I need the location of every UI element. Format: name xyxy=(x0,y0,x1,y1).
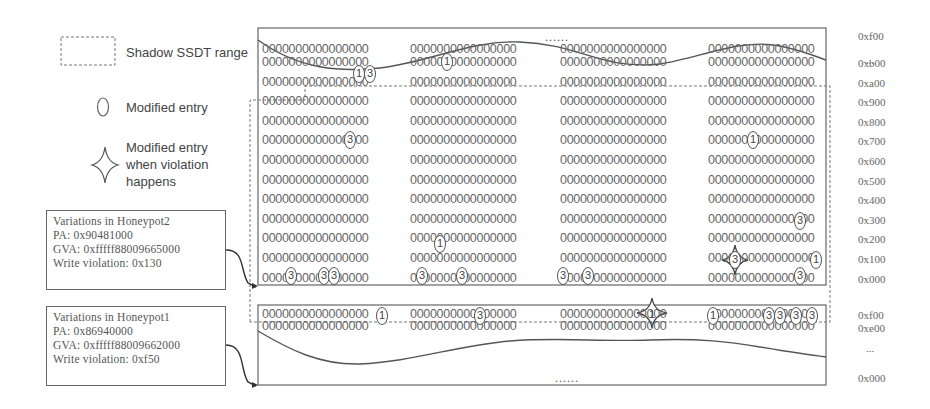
honeypot1-info-box: Variations in Honeypot1 PA: 0x86940000 G… xyxy=(46,306,226,386)
row-cell: 0000000000000000 xyxy=(708,154,814,167)
address-label: 0x100 xyxy=(858,253,886,265)
legend-dashed-rect-icon xyxy=(61,37,115,65)
modified-entry-mark: 1 xyxy=(376,307,388,325)
honeypot1-pa: PA: 0x86940000 xyxy=(53,324,219,338)
legend-ellipse-icon xyxy=(98,98,109,116)
row-cell: 0000000000000000 xyxy=(410,154,516,167)
honeypot1-title: Variations in Honeypot1 xyxy=(53,310,219,324)
row-cell: 0000000000000000 xyxy=(410,252,516,265)
row-cell: 0000000000000000 xyxy=(262,76,368,89)
modified-entry-mark: 3 xyxy=(794,212,806,230)
legend-violation-line: happens xyxy=(126,173,208,190)
modified-entry-mark: 3 xyxy=(285,267,297,285)
row-cell: 0000000000000000 xyxy=(560,154,666,167)
row-cell: 0000000000000000 xyxy=(410,134,516,147)
row-cell: 0000000000000000 xyxy=(708,193,814,206)
row-cell: 0000000000000000 xyxy=(708,134,814,147)
honeypot1-gva: GVA: 0xfffff88009662000 xyxy=(53,338,219,352)
address-label: 0x200 xyxy=(858,233,886,245)
modified-entry-mark: 3 xyxy=(790,307,802,325)
row-cell: 0000000000000000 xyxy=(410,76,516,89)
row-cell: 0000000000000000 xyxy=(560,95,666,108)
row-cell: 0000000000000000 xyxy=(560,76,666,89)
modified-entry-mark: 3 xyxy=(474,307,486,325)
address-ellipsis: ... xyxy=(866,342,874,354)
row-cell: 0000000000000000 xyxy=(560,193,666,206)
row-cell: 0000000000000000 xyxy=(560,174,666,187)
row-cell: 0000000000000000 xyxy=(560,134,666,147)
row-cell: 0000000000000000 xyxy=(410,213,516,226)
row-cell: 0000000000000000 xyxy=(262,232,368,245)
modified-entry-mark: 3 xyxy=(344,131,356,149)
row-cell: 0000000000000000 xyxy=(708,252,814,265)
modified-entry-mark: 3 xyxy=(582,267,594,285)
row-cell: 0000000000000000 xyxy=(560,213,666,226)
row-cell: 0000000000000000 xyxy=(262,320,368,333)
address-label: 0x700 xyxy=(858,135,886,147)
honeypot2-gva: GVA: 0xfffff88009665000 xyxy=(53,242,219,256)
row-cell: 0000000000000000 xyxy=(708,56,814,69)
row-cell: 0000000000000000 xyxy=(560,252,666,265)
row-cell: 0000000000000000 xyxy=(410,174,516,187)
legend-star-icon xyxy=(92,147,118,183)
honeypot2-pa: PA: 0x90481000 xyxy=(53,228,219,242)
modified-entry-mark: 3 xyxy=(557,267,569,285)
honeypot2-connector xyxy=(226,250,256,287)
address-label: 0x900 xyxy=(858,96,886,108)
lower-wave xyxy=(258,331,826,364)
address-label: 0xa00 xyxy=(858,77,885,89)
row-cell: 0000000000000000 xyxy=(410,115,516,128)
row-cell: 0000000000000000 xyxy=(410,320,516,333)
row-cell: 0000000000000000 xyxy=(708,174,814,187)
address-label: 0xe00 xyxy=(858,322,885,334)
modified-entry-mark: 1 xyxy=(810,251,822,269)
row-cell: 0000000000000000 xyxy=(708,115,814,128)
address-label: 0x600 xyxy=(858,155,886,167)
legend-violation-line: Modified entry xyxy=(126,139,208,156)
row-cell: 0000000000000000 xyxy=(560,272,666,285)
row-cell: 0000000000000000 xyxy=(262,272,368,285)
row-cell: 0000000000000000 xyxy=(262,213,368,226)
row-cell: 0000000000000000 xyxy=(262,115,368,128)
modified-entry-mark: 1 xyxy=(441,53,453,71)
row-cell: 0000000000000000 xyxy=(560,115,666,128)
row-cell: 0000000000000000 xyxy=(262,154,368,167)
row-cell: 0000000000000000 xyxy=(262,252,368,265)
row-cell: 0000000000000000 xyxy=(708,76,814,89)
lower-ellipsis: ...... xyxy=(555,371,579,386)
address-label: 0x400 xyxy=(858,194,886,206)
row-cell: 0000000000000000 xyxy=(262,193,368,206)
arrowhead-icon xyxy=(252,283,258,289)
modified-entry-mark: 1 xyxy=(747,131,759,149)
modified-entry-mark: 3 xyxy=(416,267,428,285)
row-cell: 0000000000000000 xyxy=(708,232,814,245)
legend-violation-line: when violation xyxy=(126,156,208,173)
honeypot2-info-box: Variations in Honeypot2 PA: 0x90481000 G… xyxy=(46,210,226,290)
row-cell: 0000000000000000 xyxy=(262,174,368,187)
modified-entry-mark: 3 xyxy=(806,307,818,325)
address-label: 0x500 xyxy=(858,175,886,187)
row-cell: 0000000000000000 xyxy=(708,95,814,108)
address-ellipsis: ... xyxy=(866,54,874,66)
row-cell: 0000000000000000 xyxy=(262,95,368,108)
address-label: 0x000 xyxy=(858,372,886,384)
violation-entry-mark: 3 xyxy=(729,251,741,269)
modified-entry-mark: 3 xyxy=(328,267,340,285)
address-label: 0x300 xyxy=(858,214,886,226)
legend-modified-entry: Modified entry xyxy=(126,99,208,116)
row-cell: 0000000000000000 xyxy=(410,95,516,108)
honeypot1-violation: Write violation: 0xf50 xyxy=(53,352,219,366)
honeypot1-connector xyxy=(226,345,256,386)
address-label: 0x800 xyxy=(858,116,886,128)
modified-entry-mark: 3 xyxy=(456,267,468,285)
violation-entry-mark: 1 xyxy=(646,307,658,325)
row-cell: 0000000000000000 xyxy=(410,56,516,69)
modified-entry-mark: 3 xyxy=(794,267,806,285)
address-label: 0xf00 xyxy=(858,309,884,321)
modified-entry-mark: 1 xyxy=(434,235,446,253)
modified-entry-mark: 3 xyxy=(364,65,376,83)
row-cell: 0000000000000000 xyxy=(560,232,666,245)
address-label: 0xf00 xyxy=(858,30,884,42)
legend-violation: Modified entry when violation happens xyxy=(126,139,208,190)
row-cell: 0000000000000000 xyxy=(410,232,516,245)
